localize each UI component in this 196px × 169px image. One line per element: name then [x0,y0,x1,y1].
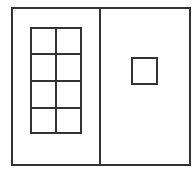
grid-row-divider-3 [30,107,82,109]
grid-row-divider-1 [30,53,82,55]
grid-row-divider-2 [30,80,82,82]
panel-divider [99,7,101,164]
square-shape [131,57,158,85]
